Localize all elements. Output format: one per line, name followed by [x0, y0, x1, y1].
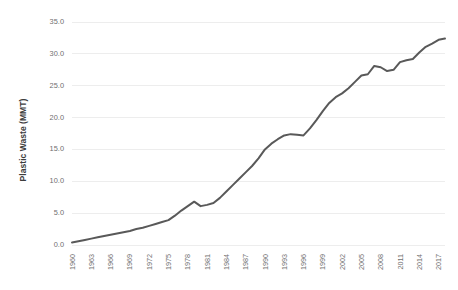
line-chart: 0.05.010.015.020.025.030.035.0 196019631…: [0, 0, 458, 290]
y-tick-label: 35.0: [50, 17, 64, 26]
x-tick-label: 1999: [318, 254, 327, 270]
x-tick-label: 1990: [261, 254, 270, 270]
chart-container: 0.05.010.015.020.025.030.035.0 196019631…: [0, 0, 458, 290]
x-tick-label: 1984: [222, 254, 231, 270]
x-tick-label: 1972: [145, 254, 154, 270]
y-tick-label: 0.0: [54, 240, 64, 249]
x-tick-label: 1969: [125, 254, 134, 270]
y-tick-label: 10.0: [50, 176, 64, 185]
x-tick-label: 2011: [396, 254, 405, 269]
y-axis-tick-labels: 0.05.010.015.020.025.030.035.0: [50, 17, 64, 249]
x-tick-label: 2017: [434, 254, 443, 270]
y-axis-title: Plastic Waste (MMT): [18, 98, 28, 181]
y-tick-label: 25.0: [50, 81, 64, 90]
x-tick-label: 1993: [280, 254, 289, 270]
x-tick-label: 2008: [376, 254, 385, 270]
x-tick-label: 1960: [68, 254, 77, 270]
x-tick-label: 1975: [164, 254, 173, 270]
x-tick-label: 1966: [106, 254, 115, 270]
x-tick-label: 2002: [338, 254, 347, 270]
gridlines: [72, 22, 445, 245]
data-series-line: [72, 39, 445, 243]
x-tick-label: 1963: [87, 254, 96, 270]
x-tick-label: 1987: [241, 254, 250, 270]
x-tick-label: 1981: [203, 254, 212, 270]
y-tick-label: 20.0: [50, 113, 64, 122]
x-tick-label: 2014: [415, 254, 424, 270]
x-tick-label: 1978: [183, 254, 192, 270]
x-tick-label: 1996: [299, 254, 308, 270]
y-tick-label: 5.0: [54, 208, 64, 217]
x-tick-label: 2005: [357, 254, 366, 270]
x-axis-tick-labels: 1960196319661969197219751978198119841987…: [68, 254, 444, 270]
y-tick-label: 30.0: [50, 49, 64, 58]
y-tick-label: 15.0: [50, 144, 64, 153]
